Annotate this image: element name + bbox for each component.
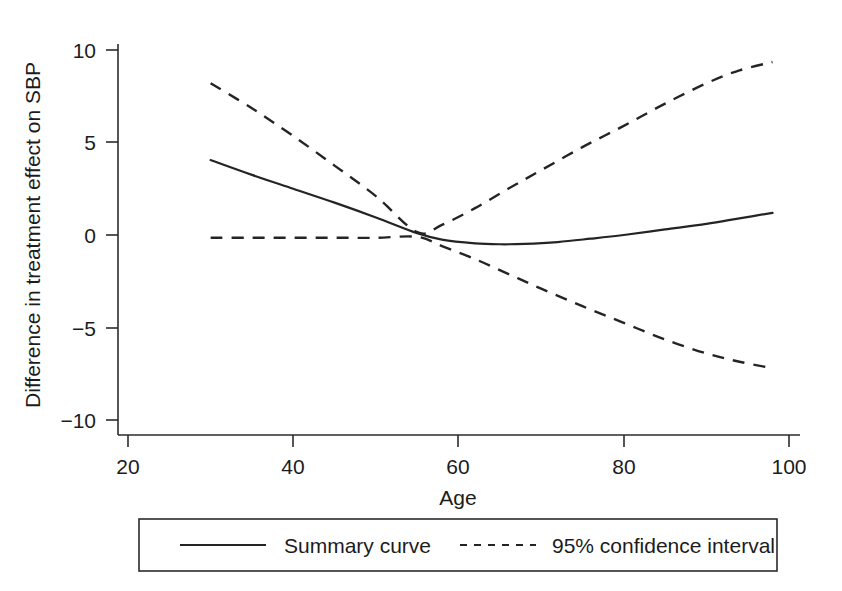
y-tick-label-minus5: −5 [72, 317, 96, 340]
series-ci-upper [211, 62, 773, 234]
legend-label-confidence-interval: 95% confidence interval [552, 534, 775, 557]
y-tick-label-10: 10 [73, 39, 96, 62]
x-tick-label-60: 60 [446, 455, 469, 478]
legend: Summary curve 95% confidence interval [139, 519, 777, 571]
x-tick-label-80: 80 [612, 455, 635, 478]
x-axis-ticks [128, 435, 789, 447]
series-summary-curve [211, 160, 773, 244]
series-ci-lower [211, 236, 773, 368]
y-tick-label-0: 0 [84, 224, 96, 247]
legend-label-summary-curve: Summary curve [284, 534, 431, 557]
y-axis-ticks [106, 50, 118, 420]
y-tick-label-5: 5 [84, 131, 96, 154]
x-tick-label-100: 100 [771, 455, 806, 478]
chart-canvas: Difference in treatment effect on SBP 10… [0, 0, 842, 591]
x-tick-label-20: 20 [116, 455, 139, 478]
x-tick-label-40: 40 [281, 455, 304, 478]
figure-container: Difference in treatment effect on SBP 10… [0, 0, 842, 591]
y-axis-title: Difference in treatment effect on SBP [21, 62, 44, 408]
y-tick-label-minus10: −10 [60, 409, 96, 432]
x-axis-title: Age [439, 486, 476, 509]
